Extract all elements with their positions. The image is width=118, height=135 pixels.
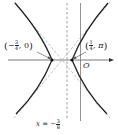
hyperbola-left-branch	[15, 3, 52, 114]
left-vertex-label: (−34, 0)	[4, 40, 33, 51]
hyperbola-figure: (−34, 0) (14, π) O x = −38	[0, 0, 118, 135]
coord-rest: , 0	[19, 41, 29, 50]
paren-close: )	[29, 40, 33, 51]
fraction: 38	[56, 119, 60, 130]
dashed-line-label: x = −38	[36, 119, 60, 130]
paren-close: )	[103, 40, 107, 51]
right-vertex-label: (14, π)	[85, 40, 107, 51]
coord-rest: , π	[93, 41, 103, 50]
minus-sign: −	[8, 41, 15, 50]
x-axis-arrow-icon	[109, 58, 114, 62]
hyperbola-right-branch	[72, 3, 108, 114]
plot-canvas	[0, 0, 118, 135]
origin-label: O	[83, 62, 90, 70]
